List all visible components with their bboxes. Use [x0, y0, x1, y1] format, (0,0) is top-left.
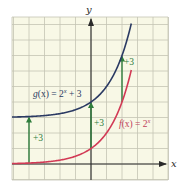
g-function-label: g(x) = 2x + 3 — [33, 87, 82, 100]
y-axis-label: y — [85, 4, 92, 15]
shift-label-right: +3 — [124, 57, 134, 67]
graph-figure: y x g(x) = 2x + 3 f(x) = 2x +3 +3 +3 — [0, 0, 181, 193]
shift-label-left: +3 — [33, 133, 43, 143]
x-axis-label: x — [171, 158, 177, 169]
f-function-label: f(x) = 2x — [119, 117, 151, 130]
shift-label-middle: +3 — [94, 118, 104, 128]
